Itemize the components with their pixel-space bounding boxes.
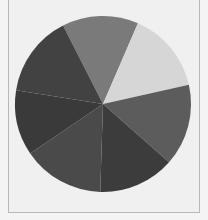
pie-slices [15,16,191,192]
pie-chart [0,0,208,220]
